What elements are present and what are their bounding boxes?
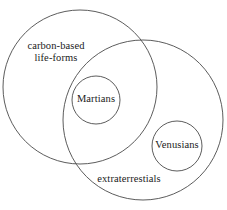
label-martians: Martians <box>66 93 126 105</box>
euler-diagram: carbon-based life-forms Martians Venusia… <box>0 0 227 210</box>
label-carbon-line-1: carbon-based <box>27 40 84 51</box>
label-extraterrestials: extraterrestials <box>83 173 175 185</box>
label-carbon-based-life-forms: carbon-based life-forms <box>12 40 100 65</box>
label-venusians: Venusians <box>146 139 208 151</box>
label-carbon-line-2: life-forms <box>12 52 100 64</box>
circle-carbon-based-life-forms <box>3 10 157 164</box>
